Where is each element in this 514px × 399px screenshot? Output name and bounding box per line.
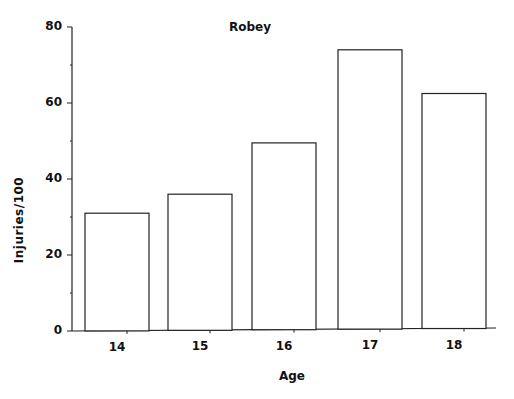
bar-14 — [85, 213, 149, 331]
y-tick-label: 20 — [32, 247, 62, 261]
y-tick-label: 80 — [32, 19, 62, 33]
x-tick-label: 18 — [434, 338, 474, 352]
x-tick-label: 17 — [350, 338, 390, 352]
y-tick-label: 40 — [32, 171, 62, 185]
bar-16 — [252, 143, 316, 330]
x-tick-label: 16 — [264, 339, 304, 353]
y-tick-label: 0 — [32, 323, 62, 337]
bar-17 — [338, 50, 402, 329]
x-tick-label: 14 — [97, 340, 137, 354]
y-tick-label: 60 — [32, 95, 62, 109]
x-tick-label: 15 — [180, 339, 220, 353]
bar-15 — [168, 194, 232, 330]
bar-18 — [422, 94, 486, 329]
